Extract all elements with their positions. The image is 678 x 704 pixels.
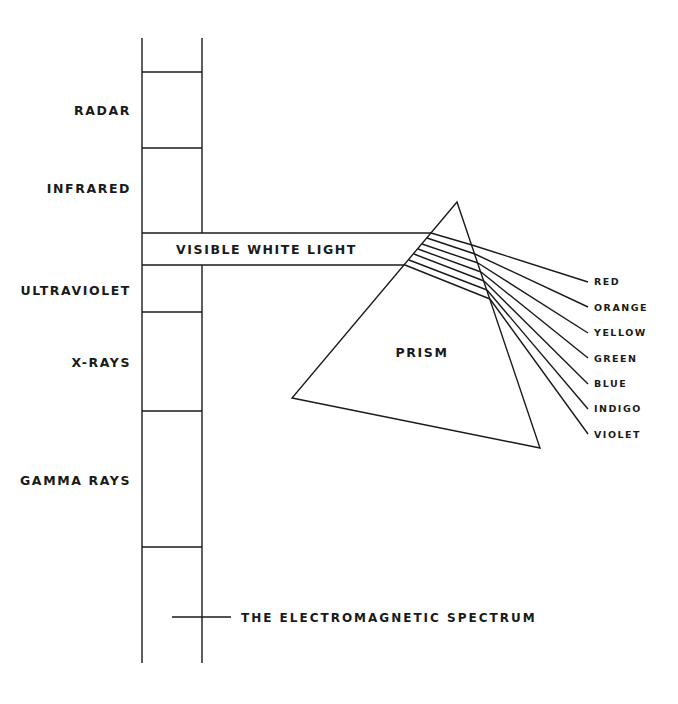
band-label-ultraviolet: ULTRAVIOLET xyxy=(20,283,131,298)
band-label-visible-white-light: VISIBLE WHITE LIGHT xyxy=(176,242,357,257)
internal-ray-red xyxy=(431,233,472,245)
internal-ray-blue xyxy=(414,254,484,281)
prism-triangle xyxy=(292,202,540,448)
exit-ray-red xyxy=(472,245,588,282)
color-label-red: RED xyxy=(594,276,620,287)
band-label-x-rays: X-RAYS xyxy=(71,355,131,370)
diagram-title: THE ELECTROMAGNETIC SPECTRUM xyxy=(241,611,537,625)
internal-rays xyxy=(405,233,490,299)
internal-ray-indigo xyxy=(409,260,487,290)
color-label-indigo: INDIGO xyxy=(594,403,642,414)
band-label-infrared: INFRARED xyxy=(47,181,131,196)
prism-label: PRISM xyxy=(396,345,449,360)
electromagnetic-spectrum-diagram: RADAR INFRARED VISIBLE WHITE LIGHT ULTRA… xyxy=(0,0,678,704)
internal-ray-orange xyxy=(427,238,475,254)
color-label-violet: VIOLET xyxy=(594,429,641,440)
color-label-blue: BLUE xyxy=(594,378,627,389)
exit-ray-blue xyxy=(484,281,588,384)
color-label-orange: ORANGE xyxy=(594,302,648,313)
exit-ray-indigo xyxy=(487,290,588,409)
band-label-gamma-rays: GAMMA RAYS xyxy=(20,473,131,488)
spectrum-column xyxy=(142,38,202,663)
band-label-radar: RADAR xyxy=(74,103,131,118)
exit-rays xyxy=(472,245,588,434)
color-label-yellow: YELLOW xyxy=(593,327,647,338)
color-label-green: GREEN xyxy=(594,353,638,364)
